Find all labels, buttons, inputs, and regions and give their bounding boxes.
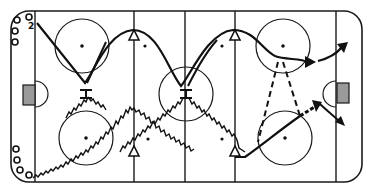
player-marker bbox=[13, 146, 19, 152]
cone-bottom-left-blue bbox=[129, 146, 139, 156]
pass-lines bbox=[258, 62, 300, 142]
pass-line-2 bbox=[283, 62, 300, 116]
crease-left bbox=[35, 81, 48, 107]
dot-bottom-left bbox=[84, 136, 88, 140]
stop-symbols bbox=[80, 90, 192, 98]
puck-carry-path bbox=[33, 107, 194, 178]
skate-path-bottom-right bbox=[235, 116, 300, 157]
shot-arrow bbox=[300, 106, 316, 116]
player-marker bbox=[26, 14, 32, 20]
player-marker bbox=[12, 28, 18, 34]
player-label-2: 2 bbox=[28, 21, 34, 31]
skate-path-center-strand bbox=[188, 40, 217, 86]
goal-net-right bbox=[337, 83, 349, 103]
pass-line-1 bbox=[258, 62, 278, 142]
dot-top-right bbox=[281, 44, 285, 48]
goal-net-left bbox=[23, 85, 35, 105]
hockey-drill-diagram: 2 bbox=[0, 0, 367, 189]
dot-top-left bbox=[80, 44, 84, 48]
faceoff-dots bbox=[80, 44, 287, 140]
dot-neutral-4 bbox=[220, 137, 223, 140]
player-group-bottom-left bbox=[13, 146, 32, 178]
skate-path-top bbox=[37, 23, 308, 86]
player-marker bbox=[17, 167, 23, 173]
exit-path bbox=[318, 47, 342, 61]
player-marker bbox=[14, 157, 20, 163]
rebound-path bbox=[320, 104, 340, 122]
crease-right bbox=[323, 81, 336, 107]
shot-arrowhead bbox=[312, 100, 322, 112]
dot-neutral-2 bbox=[220, 44, 223, 47]
player-marker bbox=[12, 39, 18, 45]
dot-neutral-1 bbox=[143, 44, 146, 47]
dot-neutral-3 bbox=[146, 137, 149, 140]
arrowhead-top-path bbox=[305, 56, 316, 68]
player-marker bbox=[14, 17, 20, 23]
dot-bottom-right bbox=[283, 136, 287, 140]
player-marker bbox=[26, 172, 32, 178]
